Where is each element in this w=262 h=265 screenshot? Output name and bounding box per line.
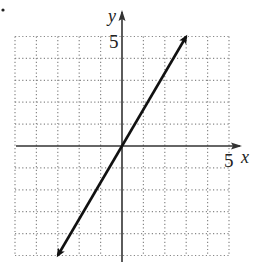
graph-line <box>122 37 186 147</box>
y-axis-label: y <box>106 6 116 26</box>
y-tick-label-5: 5 <box>109 31 119 52</box>
coordinate-plane: y 5 5 x <box>0 0 262 265</box>
problem-marker-dot <box>1 8 4 11</box>
x-axis-label: x <box>240 147 249 167</box>
x-tick-label-5: 5 <box>224 150 234 171</box>
graph-line-negative-arrow <box>58 146 122 256</box>
